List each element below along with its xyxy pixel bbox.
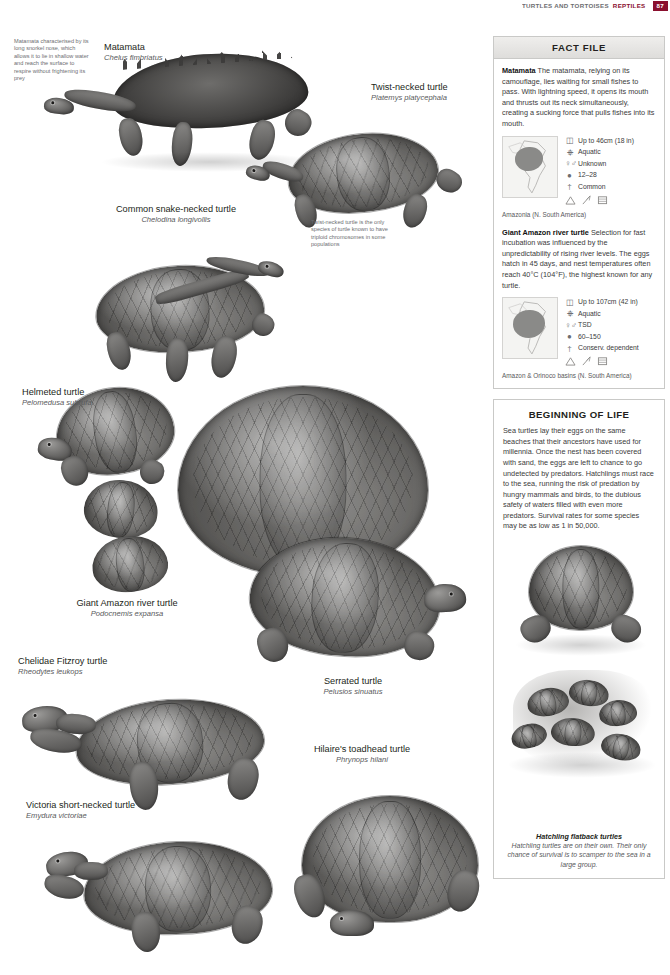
- grass-icon: [597, 356, 608, 366]
- grass-icon: [597, 195, 608, 205]
- species-label-twist-necked-turtle: Twist-necked turtle Platemys platycephal…: [371, 82, 448, 103]
- tree-icon: [581, 195, 592, 205]
- fact-row-size: ◫ Up to 46cm (18 in): [565, 136, 656, 146]
- fact-file-entry-giant-amazon-river-turtle: Giant Amazon river turtle Selection for …: [502, 228, 656, 381]
- fact-row-sex-determination: ♀♂ TSD: [565, 320, 656, 330]
- fact-row-size: ◫ Up to 107cm (42 in): [565, 297, 656, 307]
- species-label-chelidae-fitzroy-turtle: Chelidae Fitzroy turtle Rheodytes leukop…: [18, 656, 107, 677]
- species-latin-name: Chelodina longivollis: [76, 215, 276, 225]
- species-label-common-snake-necked-turtle: Common snake-necked turtle Chelodina lon…: [76, 204, 276, 225]
- species-label-matamata: Matamata Chelus fimbriatus: [104, 42, 163, 63]
- habitat-aquatic-icon: ⎈: [565, 148, 574, 157]
- species-label-serrated-turtle: Serrated turtle Pelusios sinuatus: [268, 676, 438, 697]
- fact-entry-block: ◫ Up to 46cm (18 in) ⎈ Aquatic ♀♂ Unknow…: [502, 136, 656, 205]
- species-label-victoria-short-necked-turtle: Victoria short-necked turtle Emydura vic…: [26, 800, 135, 821]
- species-latin-name: Pelusios sinuatus: [268, 687, 438, 697]
- fact-entry-name: Matamata: [502, 66, 536, 75]
- range-map-matamata: [502, 136, 558, 198]
- conservation-status-icon: †: [565, 182, 574, 191]
- range-map-giant-amazon-river-turtle: [502, 297, 558, 359]
- running-header-inner: TURTLES AND TORTOISES REPTILES 87: [522, 0, 670, 11]
- fact-file-body: Matamata The matamata, relying on its ca…: [494, 59, 664, 388]
- tree-icon: [581, 356, 592, 366]
- species-common-name: Twist-necked turtle: [371, 82, 448, 93]
- fact-value: TSD: [578, 320, 592, 330]
- fact-row-habitat: ⎈ Aquatic: [565, 147, 656, 157]
- habitat-symbol-row: [565, 195, 656, 205]
- species-label-helmeted-turtle: Helmeted turtle Pelomedusa subrufa: [22, 387, 92, 408]
- fact-row-habitat: ⎈ Aquatic: [565, 309, 656, 319]
- species-latin-name: Podocnemis expansa: [22, 609, 232, 619]
- fact-entry-name: Giant Amazon river turtle: [502, 228, 589, 237]
- beginning-of-life-paragraph: Sea turtles lay their eggs on the same b…: [503, 426, 655, 532]
- species-latin-name: Emydura victoriae: [26, 811, 135, 821]
- fact-file-title: FACT FILE: [494, 37, 664, 59]
- size-icon: ◫: [565, 136, 574, 145]
- species-common-name: Matamata: [104, 42, 163, 53]
- running-header-accent: REPTILES: [613, 2, 646, 9]
- fact-row-conservation: † Common: [565, 182, 656, 192]
- sidebar-rail: FACT FILE Matamata The matamata, relying…: [493, 36, 665, 889]
- fact-row-conservation: † Conserv. dependent: [565, 343, 656, 353]
- fact-value: 12–28: [578, 170, 597, 180]
- clutch-eggs-icon: ●: [565, 332, 574, 341]
- fact-file-panel: FACT FILE Matamata The matamata, relying…: [493, 36, 665, 389]
- fact-entry-paragraph: Matamata The matamata, relying on its ca…: [502, 66, 656, 130]
- fact-entry-text: The matamata, relying on its camouflage,…: [502, 66, 655, 128]
- fact-value: 60–150: [578, 332, 601, 342]
- species-common-name: Common snake-necked turtle: [76, 204, 276, 215]
- fact-value: Up to 107cm (42 in): [578, 297, 638, 307]
- conservation-status-icon: †: [565, 344, 574, 353]
- species-common-name: Serrated turtle: [268, 676, 438, 687]
- species-latin-name: Platemys platycephala: [371, 93, 448, 103]
- range-caption-matamata: Amazonia (N. South America): [502, 210, 656, 219]
- encyclopedia-page: TURTLES AND TORTOISES REPTILES 87 Matama…: [0, 0, 670, 975]
- range-highlight: [515, 147, 543, 171]
- fact-list-giant-amazon-river-turtle: ◫ Up to 107cm (42 in) ⎈ Aquatic ♀♂ TSD: [565, 297, 656, 366]
- range-caption-giant-amazon-river-turtle: Amazon & Orinoco basins (N. South Americ…: [502, 371, 656, 380]
- beginning-of-life-title: BEGINNING OF LIFE: [503, 409, 655, 420]
- caption-text: Hatchling turtles are on their own. Thei…: [503, 841, 655, 869]
- fact-row-sex-determination: ♀♂ Unknown: [565, 159, 656, 169]
- species-common-name: Helmeted turtle: [22, 387, 92, 398]
- mountain-icon: [565, 195, 576, 205]
- mountain-icon: [565, 356, 576, 366]
- sex-determination-icon: ♀♂: [565, 321, 574, 330]
- fact-value: Aquatic: [578, 147, 601, 157]
- fact-row-clutch-size: ● 12–28: [565, 170, 656, 180]
- species-common-name: Hilaire's toadhead turtle: [262, 744, 462, 755]
- annotation-twist-necked-note: Twist-necked turtle is the only species …: [311, 219, 397, 249]
- page-folio: 87: [653, 1, 668, 11]
- fact-file-entry-matamata: Matamata The matamata, relying on its ca…: [502, 66, 656, 219]
- habitat-symbol-row: [565, 356, 656, 366]
- species-label-giant-amazon-river-turtle: Giant Amazon river turtle Podocnemis exp…: [22, 598, 232, 619]
- species-latin-name: Chelus fimbriatus: [104, 53, 163, 63]
- species-common-name: Giant Amazon river turtle: [22, 598, 232, 609]
- fact-row-clutch-size: ● 60–150: [565, 332, 656, 342]
- running-header: TURTLES AND TORTOISES REPTILES 87: [0, 0, 670, 14]
- fact-entry-paragraph: Giant Amazon river turtle Selection for …: [502, 228, 656, 292]
- fact-value: Aquatic: [578, 309, 601, 319]
- fact-value: Up to 46cm (18 in): [578, 136, 634, 146]
- running-header-title: TURTLES AND TORTOISES: [522, 2, 609, 9]
- species-latin-name: Rheodytes leukops: [18, 667, 107, 677]
- beginning-of-life-panel: BEGINNING OF LIFE Sea turtles lay their …: [493, 399, 665, 879]
- fact-value: Unknown: [578, 159, 606, 169]
- beginning-of-life-caption: Hatchling flatback turtles Hatchling tur…: [503, 832, 655, 869]
- illustration-plate: Matamata characterised by its long snork…: [0, 14, 492, 975]
- annotation-matamata-note: Matamata characterised by its long snork…: [14, 38, 90, 82]
- fact-entry-block: ◫ Up to 107cm (42 in) ⎈ Aquatic ♀♂ TSD: [502, 297, 656, 366]
- species-common-name: Victoria short-necked turtle: [26, 800, 135, 811]
- species-latin-name: Phrynops hilani: [262, 755, 462, 765]
- clutch-eggs-icon: ●: [565, 171, 574, 180]
- species-label-hilaires-toadhead-turtle: Hilaire's toadhead turtle Phrynops hilan…: [262, 744, 462, 765]
- species-common-name: Chelidae Fitzroy turtle: [18, 656, 107, 667]
- beginning-of-life-body: BEGINNING OF LIFE Sea turtles lay their …: [494, 400, 664, 878]
- size-icon: ◫: [565, 298, 574, 307]
- fact-value: Common: [578, 182, 606, 192]
- caption-title: Hatchling flatback turtles: [503, 832, 655, 841]
- fact-value: Conserv. dependent: [578, 343, 639, 353]
- fact-list-matamata: ◫ Up to 46cm (18 in) ⎈ Aquatic ♀♂ Unknow…: [565, 136, 656, 205]
- sex-determination-icon: ♀♂: [565, 159, 574, 168]
- beginning-of-life-illustration: [503, 538, 655, 828]
